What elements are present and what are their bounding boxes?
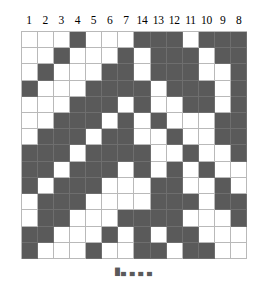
column-header-10: 12 (166, 10, 182, 30)
grid-cell (70, 243, 86, 259)
grid-cell (151, 227, 167, 243)
grid-cell (22, 210, 38, 226)
column-header-2: 2 (37, 10, 53, 30)
grid-cell (134, 113, 150, 129)
grid-cell (134, 227, 150, 243)
grid-cell (199, 113, 215, 129)
grid-cell (183, 145, 199, 161)
grid-cell (199, 64, 215, 80)
grid-cell (70, 97, 86, 113)
grid-cell (102, 145, 118, 161)
grid-cell (215, 194, 231, 210)
grid-cell (54, 81, 70, 97)
grid-cell (215, 129, 231, 145)
column-header-11: 11 (182, 10, 198, 30)
grid-cell (102, 64, 118, 80)
grid-cell (70, 145, 86, 161)
grid-cell (102, 243, 118, 259)
grid-cell (54, 129, 70, 145)
grid-cell (199, 81, 215, 97)
grid-cell (86, 129, 102, 145)
grid-cell (22, 145, 38, 161)
grid-cell (199, 129, 215, 145)
grid-cell (183, 97, 199, 113)
grid-cell (102, 162, 118, 178)
grid-cell (86, 145, 102, 161)
grid-cell (102, 97, 118, 113)
grid-cell (151, 178, 167, 194)
grid-cell (183, 64, 199, 80)
grid-cell (215, 227, 231, 243)
grid-cell (102, 210, 118, 226)
grid-cell (22, 48, 38, 64)
grid-cell (22, 113, 38, 129)
grid-cell (183, 32, 199, 48)
grid-cell (183, 243, 199, 259)
grid-cell (22, 162, 38, 178)
grid-cell (86, 97, 102, 113)
grid-cell (199, 178, 215, 194)
grid-cell (215, 113, 231, 129)
grid-cell (134, 145, 150, 161)
grid-cell (231, 129, 247, 145)
grid-cell (231, 178, 247, 194)
column-header-8: 14 (134, 10, 150, 30)
grid-cell (38, 194, 54, 210)
grid-cell (134, 178, 150, 194)
column-header-13: 9 (215, 10, 231, 30)
grid-cell (118, 113, 134, 129)
grid-cell (199, 48, 215, 64)
grid-cell (215, 32, 231, 48)
grid-cell (118, 32, 134, 48)
grid-cell (134, 194, 150, 210)
grid-cell (183, 129, 199, 145)
grid-cell (134, 48, 150, 64)
grid-cell (151, 113, 167, 129)
grid-cell (118, 129, 134, 145)
grid-cell (38, 32, 54, 48)
grid-cell (167, 194, 183, 210)
grid-cell (167, 32, 183, 48)
grid-cell (38, 243, 54, 259)
grid-cell (183, 210, 199, 226)
grid-cell (38, 48, 54, 64)
column-header-9: 13 (150, 10, 166, 30)
grid-cell (86, 113, 102, 129)
binary-grid (21, 31, 247, 259)
grid-cell (167, 243, 183, 259)
grid-cell (118, 145, 134, 161)
column-header-7: 7 (118, 10, 134, 30)
column-header-5: 5 (86, 10, 102, 30)
column-header-14: 8 (231, 10, 247, 30)
grid-cell (22, 243, 38, 259)
grid-cell (151, 48, 167, 64)
grid-cell (183, 48, 199, 64)
grid-cell (151, 210, 167, 226)
grid-cell (134, 243, 150, 259)
grid-cell (118, 162, 134, 178)
grid-cell (38, 81, 54, 97)
grid-cell (102, 32, 118, 48)
grid-cell (22, 194, 38, 210)
grid-cell (231, 145, 247, 161)
column-header-row: 1234567141312111098 (21, 10, 247, 30)
grid-cell (231, 81, 247, 97)
grid-cell (70, 162, 86, 178)
grid-cell (215, 162, 231, 178)
grid-cell (118, 48, 134, 64)
grid-cell (231, 227, 247, 243)
grid-cell (167, 113, 183, 129)
grid-cell (134, 129, 150, 145)
grid-cell (231, 243, 247, 259)
grid-cell (70, 227, 86, 243)
grid-cell (118, 97, 134, 113)
grid-cell (54, 145, 70, 161)
grid-cell (54, 178, 70, 194)
column-header-4: 4 (69, 10, 85, 30)
grid-cell (102, 81, 118, 97)
grid-cell (183, 227, 199, 243)
grid-cell (22, 81, 38, 97)
grid-cell (86, 243, 102, 259)
grid-cell (54, 48, 70, 64)
grid-cell (70, 32, 86, 48)
